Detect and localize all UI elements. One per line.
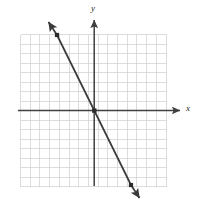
x-axis-label: x bbox=[186, 104, 190, 113]
data-point-marker bbox=[55, 33, 59, 37]
coordinate-plane-figure: y x bbox=[0, 0, 200, 212]
data-point-marker bbox=[92, 108, 96, 112]
y-axis-label: y bbox=[91, 4, 95, 13]
data-point-marker bbox=[129, 183, 133, 187]
graph-canvas bbox=[0, 0, 200, 212]
